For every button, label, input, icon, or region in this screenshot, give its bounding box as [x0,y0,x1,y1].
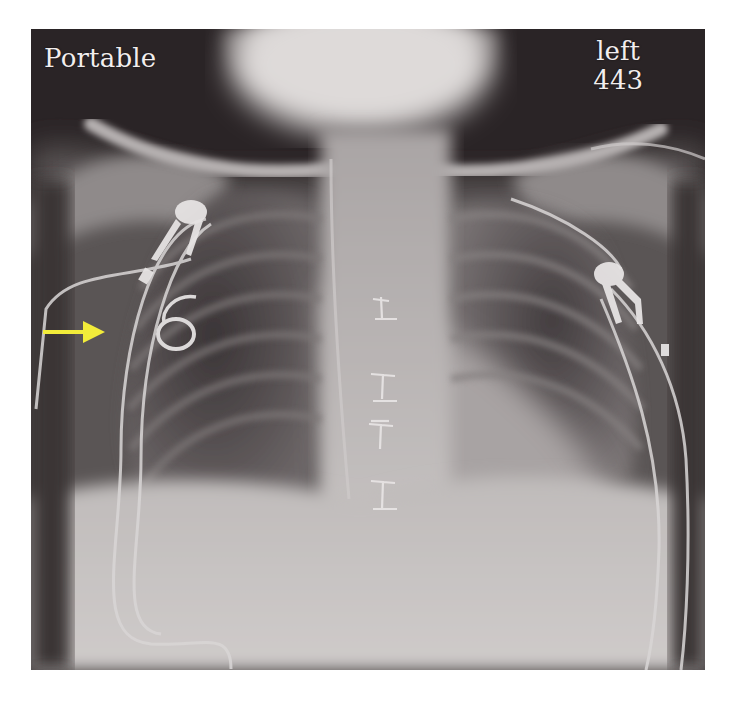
chest-xray-image [31,29,705,670]
side-marker-number: 443 [593,66,643,95]
annotation-arrow-icon [41,319,107,345]
xray-figure: Portable left 443 [31,29,705,670]
side-marker-text: left [593,37,643,66]
side-marker-label: left 443 [593,37,643,95]
xray-illustration [31,29,705,670]
portable-label: Portable [44,45,156,71]
figure-caption [38,686,737,701]
